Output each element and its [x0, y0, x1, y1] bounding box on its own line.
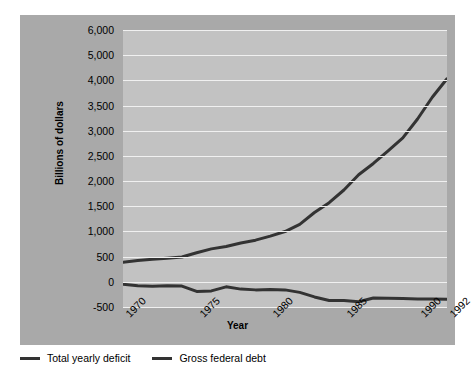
gridline	[123, 156, 447, 157]
gridline	[123, 80, 447, 81]
gridlines	[123, 30, 447, 307]
gridline	[123, 55, 447, 56]
legend-line-swatch-icon	[152, 357, 172, 360]
x-axis-title: Year	[20, 320, 455, 331]
gridline	[123, 257, 447, 258]
gridline	[123, 206, 447, 207]
legend-line-swatch-icon	[20, 357, 40, 360]
gridline	[123, 181, 447, 182]
gridline	[123, 30, 447, 31]
gridline	[123, 131, 447, 132]
legend-entry[interactable]: Total yearly deficit	[20, 352, 130, 364]
y-axis-tick-label: 4,000	[88, 74, 114, 86]
y-axis-tick-label: -500	[93, 301, 114, 313]
y-axis-tick-label: 1,000	[88, 225, 114, 237]
y-axis-tick-label: 2,500	[88, 150, 114, 162]
legend-label: Total yearly deficit	[47, 352, 130, 364]
gridline	[123, 231, 447, 232]
legend-entry[interactable]: Gross federal debt	[152, 352, 265, 364]
y-axis-tick-label: 3,000	[88, 125, 114, 137]
y-axis-tick-label: 5,000	[88, 49, 114, 61]
chart-figure-panel: Billions of dollars 6,0005,0004,0003,500…	[20, 15, 455, 345]
y-axis-tick-label: 1,500	[88, 200, 114, 212]
y-axis-tick-label: 0	[108, 276, 114, 288]
y-axis-tick-label: 6,000	[88, 24, 114, 36]
legend-label: Gross federal debt	[179, 352, 265, 364]
gridline	[123, 106, 447, 107]
plot-area	[123, 30, 447, 307]
chart-legend: Total yearly deficitGross federal debt	[20, 352, 266, 364]
y-axis-tick-label: 2,000	[88, 175, 114, 187]
y-axis-tick-label: 3,500	[88, 100, 114, 112]
gridline	[123, 282, 447, 283]
x-axis-tick-label: 1992	[447, 294, 472, 319]
y-axis-tick-label: 500	[96, 251, 114, 263]
y-axis-tick-labels: 6,0005,0004,0003,5003,0002,5002,0001,500…	[20, 30, 119, 307]
